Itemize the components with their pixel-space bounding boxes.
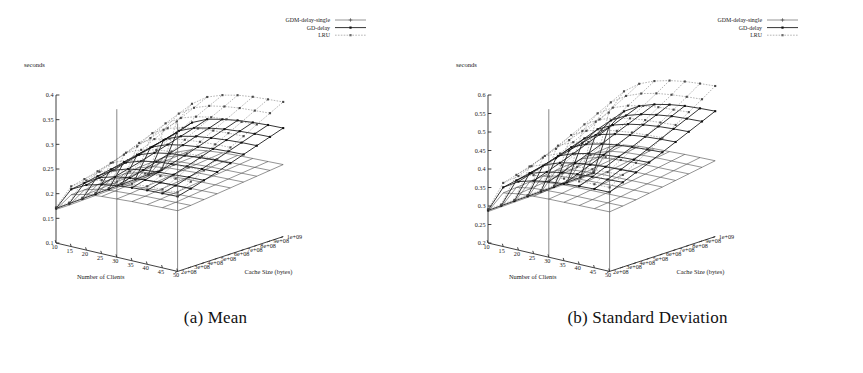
data-point [540,189,542,191]
data-point [157,161,159,163]
data-point [688,111,690,113]
x-tick-label: 20 [514,250,520,257]
panel-mean: 0.10.150.20.250.30.350.41015202530354045… [0,0,431,300]
data-point [161,192,163,194]
data-point [589,154,591,156]
data-point [557,145,559,147]
data-point [210,116,212,118]
data-point [572,141,574,143]
data-point [657,106,659,108]
data-point [620,159,622,161]
caption-standard-deviation: (b) Standard Deviation [432,308,863,328]
data-point [531,172,533,174]
data-point [190,181,192,183]
data-point [225,118,227,120]
data-point [188,166,190,168]
data-point [163,139,165,141]
data-point [570,134,572,136]
data-point [85,179,87,181]
data-point [216,171,218,173]
data-point [607,171,609,173]
data-point [570,146,572,148]
data-point [167,127,169,129]
data-point [223,128,225,130]
data-point [625,114,627,116]
data-point [159,181,161,183]
mesh-line-y [610,86,716,187]
axis-labels: 0.10.150.20.250.30.350.41015202530354045… [24,61,302,280]
data-point [108,187,110,189]
data-point [599,134,601,136]
data-point [101,184,103,186]
data-point [68,202,70,204]
data-point [699,107,701,109]
x-tick-label: 40 [143,264,149,271]
x-tick-label: 45 [158,268,164,275]
data-point [197,146,199,148]
panel-stddev: 0.20.250.30.350.40.450.50.550.6101520253… [432,0,863,300]
data-point [201,155,203,157]
surface-mesh [487,79,716,211]
data-point [620,169,622,171]
data-point [642,124,644,126]
mesh-line-y [162,162,268,208]
data-point [256,145,258,147]
data-point [623,110,625,112]
x-tick-label: 50 [605,271,611,278]
data-point [136,145,138,147]
data-point [612,107,614,109]
data-point [585,130,587,132]
z-tick-label: 0.25 [475,221,486,228]
data-point [603,154,605,156]
legend-label: GD-delay [739,25,762,31]
mesh-series [55,118,284,209]
data-point [241,121,243,123]
data-point [129,177,131,179]
data-point [229,162,231,164]
data-point [131,187,133,189]
data-point [633,159,635,161]
data-point [70,188,72,190]
data-point [610,101,612,103]
chart-standard-deviation: 0.20.250.30.350.40.450.50.550.6101520253… [432,0,863,300]
data-point [110,162,112,164]
data-point [155,149,157,151]
data-point [99,171,101,173]
data-point [502,186,504,188]
data-point [633,146,635,148]
z-axis-title: seconds [24,61,45,68]
y-axis-title: Cache Size (bytes) [244,268,292,276]
data-point [622,181,624,183]
data-point [648,161,650,163]
data-point [607,178,609,180]
data-point [544,155,546,157]
data-point [566,180,568,182]
x-tick-label: 20 [82,250,88,257]
data-point [578,185,580,187]
data-point [142,169,144,171]
data-point [176,120,178,122]
data-point [622,174,624,176]
data-point [70,185,72,187]
legend-marker-plus [349,18,353,22]
data-point [593,171,595,173]
data-point [203,179,205,181]
data-point [673,128,675,130]
mesh-series [55,94,284,208]
data-point [591,176,593,178]
data-point [635,162,637,164]
data-point [629,117,631,119]
data-point [199,141,201,143]
data-point [227,150,229,152]
z-tick-label: 0.35 [43,116,54,123]
data-point [638,83,640,85]
data-point [157,171,159,173]
data-point [123,154,125,156]
data-point [578,180,580,182]
caption-mean: (a) Mean [0,308,431,328]
data-point [623,90,625,92]
data-point [576,173,578,175]
data-point [144,179,146,181]
data-point [583,137,585,139]
data-point [605,156,607,158]
